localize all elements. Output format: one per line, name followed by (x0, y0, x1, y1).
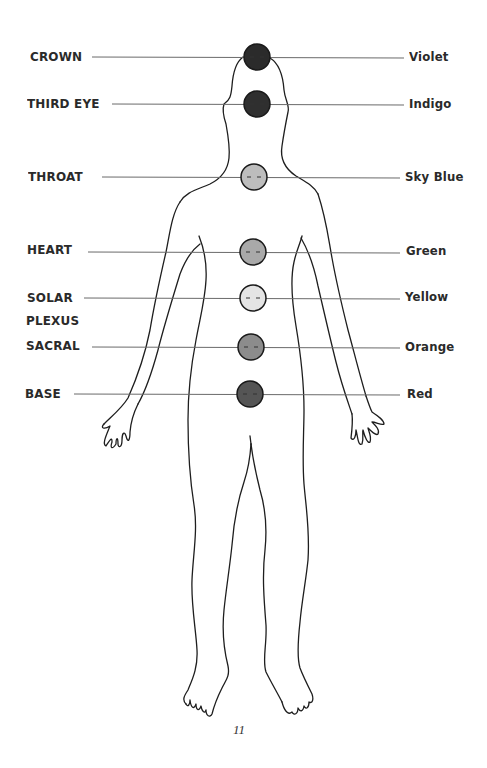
chakra-label-third-eye: THIRD EYE (27, 96, 100, 111)
color-label-violet: Violet (409, 49, 449, 64)
chakra-circle (237, 381, 263, 407)
chakra-circle (244, 44, 270, 70)
color-label-yellow: Yellow (405, 289, 448, 304)
color-label-orange: Orange (405, 339, 454, 354)
chakra-label-heart: HEART (27, 242, 72, 257)
chakra-circles (237, 44, 270, 407)
color-label-green: Green (406, 243, 446, 258)
chakra-label-solar: SOLAR (27, 290, 73, 305)
chakra-circle (241, 164, 267, 190)
color-label-indigo: Indigo (409, 96, 452, 111)
chakra-circle (238, 334, 264, 360)
chakra-label-base: BASE (25, 386, 61, 401)
color-label-red: Red (407, 386, 433, 401)
page-number: 11 (233, 722, 245, 738)
color-label-sky-blue: Sky Blue (405, 169, 464, 184)
chakra-circle (240, 239, 266, 265)
chakra-label-sacral: SACRAL (26, 338, 80, 353)
chakra-circle (240, 285, 266, 311)
body-outline-figure (0, 0, 487, 768)
chakra-label-plexus: PLEXUS (26, 313, 79, 328)
chakra-label-crown: CROWN (30, 49, 82, 64)
chakra-label-throat: THROAT (28, 169, 83, 184)
chakra-diagram: CROWN THIRD EYE THROAT HEART SOLAR PLEXU… (0, 0, 487, 768)
chakra-circle (244, 91, 270, 117)
